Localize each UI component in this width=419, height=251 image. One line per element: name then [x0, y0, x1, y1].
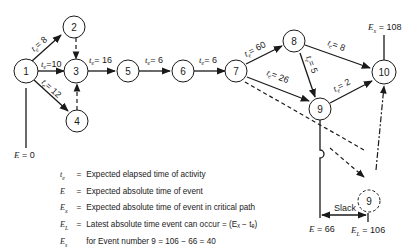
edge-label-1-3: te=10	[41, 59, 61, 70]
svg-text:10: 10	[378, 67, 390, 78]
edge-label-1-2: te= 8	[29, 34, 50, 54]
node-1: 1	[14, 59, 38, 83]
latest-time-annotation: EL = 106	[351, 225, 385, 237]
edge-label-8-10: te= 8	[326, 37, 347, 53]
node-9: 9	[309, 98, 331, 120]
svg-text:9: 9	[366, 196, 372, 207]
edge-7-9L-dashed	[245, 82, 364, 150]
edge-label-9-10: te= 2	[331, 77, 352, 95]
edge-label-3-5: te= 16	[89, 55, 112, 66]
svg-text:1: 1	[23, 66, 29, 77]
slack-label: Slack	[334, 203, 356, 213]
svg-text:3: 3	[73, 66, 79, 77]
legend-item: te= Expected elapsed time of activity	[60, 168, 257, 185]
event9-time-line	[320, 115, 324, 218]
svg-text:5: 5	[125, 66, 131, 77]
legend: te= Expected elapsed time of activity E=…	[60, 168, 257, 251]
edge-7-9L-arrow	[330, 148, 364, 177]
node-7: 7	[225, 60, 247, 82]
start-time-annotation: E = 0	[14, 150, 35, 160]
end-time-annotation: Ex = 108	[368, 22, 401, 34]
node-9-latest: 9	[358, 190, 380, 212]
legend-item: EL= Latest absolute time event can occur…	[60, 218, 257, 235]
event9-time-annotation: E = 66	[309, 224, 335, 234]
node-4: 4	[66, 110, 88, 132]
node-5: 5	[117, 60, 139, 82]
svg-text:6: 6	[180, 66, 186, 77]
edge-label-7-8: te= 60	[242, 39, 267, 59]
node-8: 8	[283, 30, 305, 52]
legend-item: Ex= Expected absolute time of event in c…	[60, 201, 257, 218]
node-10: 10	[372, 60, 396, 84]
legend-item: E= Expected absolute time of event	[60, 185, 257, 202]
legend-item: Es for Event number 9 = 106 − 66 = 40	[60, 235, 257, 251]
svg-text:9: 9	[317, 104, 323, 115]
edge-label-5-6: te= 6	[145, 55, 163, 66]
svg-text:4: 4	[74, 116, 80, 127]
node-3: 3	[64, 59, 88, 83]
edge-label-7-9: te= 26	[265, 68, 290, 87]
edge-label-8-9: te= 5	[303, 54, 319, 75]
node-2: 2	[63, 16, 85, 38]
node-6: 6	[172, 60, 194, 82]
svg-text:8: 8	[291, 36, 297, 47]
svg-text:7: 7	[233, 66, 239, 77]
edge-label-1-4: te= 12	[39, 77, 63, 101]
svg-text:2: 2	[71, 22, 77, 33]
edge-label-6-7: te= 6	[199, 55, 217, 66]
edge-9L-10-dashed	[376, 86, 384, 170]
